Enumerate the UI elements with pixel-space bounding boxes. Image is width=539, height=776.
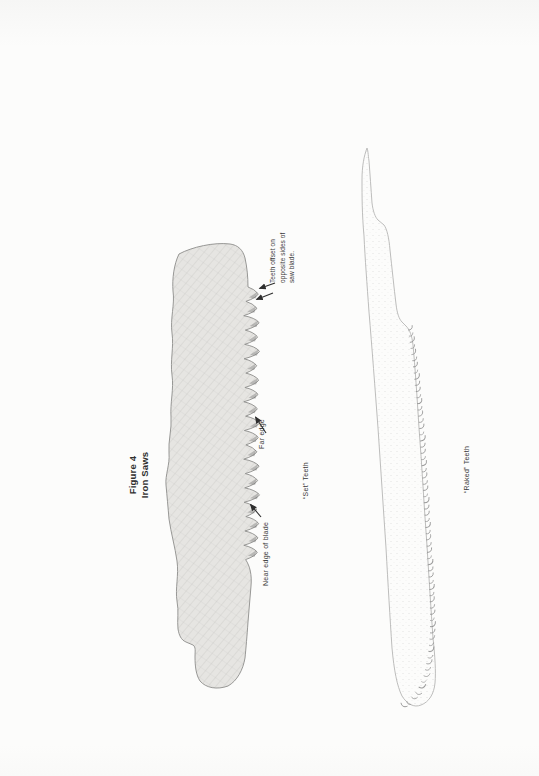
teeth-offset-note: Teeth offset on opposite sides of saw bl…: [268, 233, 297, 283]
figure-title: Iron Saws: [139, 450, 151, 500]
set-teeth-saw-drawing: [166, 244, 260, 688]
teeth-offset-note-line-1: Teeth offset on: [268, 233, 278, 283]
teeth-offset-note-line-2: opposite sides of: [278, 233, 288, 283]
figure-label: Figure 4: [127, 450, 139, 500]
teeth-offset-arrow-upper: [260, 283, 276, 289]
teeth-offset-arrow-lower: [257, 293, 274, 300]
teeth-offset-note-line-3: saw blade.: [287, 233, 297, 283]
scanned-document-page: Figure 4 Iron Saws Near edge of blade Fa…: [0, 0, 539, 776]
raked-teeth-label: “Raked” Teeth: [463, 446, 470, 493]
set-teeth-label: “Set” Teeth: [302, 462, 309, 499]
raked-teeth-saw-drawing: [362, 148, 437, 708]
near-edge-label: Near edge of blade: [262, 522, 269, 586]
figure-title-block: Figure 4 Iron Saws: [127, 450, 151, 500]
iron-saws-figure-artwork: [0, 0, 539, 776]
far-edge-label: Far edge: [258, 419, 265, 449]
